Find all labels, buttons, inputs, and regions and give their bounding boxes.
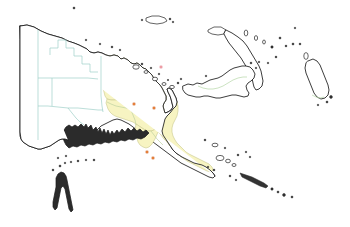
islet-feni bbox=[271, 46, 273, 48]
island-umboi bbox=[170, 85, 175, 88]
islet-nb-west-b bbox=[180, 78, 182, 80]
islet-jayapura bbox=[73, 7, 75, 9]
islet-ni-b bbox=[285, 45, 287, 47]
marker-sepik bbox=[133, 103, 135, 105]
island-normanby bbox=[232, 164, 236, 167]
island-manam bbox=[133, 65, 139, 69]
islet-north-c bbox=[158, 73, 160, 75]
marker-gulf bbox=[146, 151, 148, 153]
island-long bbox=[162, 83, 166, 86]
islet-bv-north bbox=[299, 43, 301, 45]
islet-north-b bbox=[150, 67, 152, 69]
islet-shortland-b bbox=[326, 101, 328, 103]
islet-mb-d bbox=[245, 151, 247, 153]
islet-torres-f bbox=[93, 159, 95, 161]
islet-ni-f bbox=[258, 61, 260, 63]
islet-torres-a bbox=[59, 165, 61, 167]
island-karkar bbox=[144, 71, 148, 74]
marker-lae bbox=[153, 107, 155, 109]
island-fergusson bbox=[226, 159, 231, 163]
islet-ni-d bbox=[275, 56, 277, 58]
islet-bv-south bbox=[317, 104, 319, 106]
islet-louisiade-a bbox=[271, 188, 273, 190]
islet-north-a bbox=[141, 63, 143, 65]
islet-torres-b bbox=[64, 162, 66, 164]
islet-mb-c bbox=[237, 154, 239, 156]
islet-nb-north bbox=[205, 75, 207, 77]
islet-wewak bbox=[119, 49, 121, 51]
islet-mb-a bbox=[204, 139, 206, 141]
islet-nb-west-a bbox=[177, 82, 179, 84]
islet-shortland-a bbox=[330, 96, 333, 99]
islet-torres-c bbox=[70, 161, 72, 163]
islet-louisiade-f bbox=[235, 179, 237, 181]
island-trobriand bbox=[212, 143, 218, 147]
marker-port-moresby bbox=[152, 157, 154, 159]
island-lihir bbox=[254, 36, 257, 41]
islet-torres-i bbox=[65, 155, 67, 157]
islet-torres-g bbox=[52, 169, 54, 171]
islet-louisiade-c bbox=[283, 194, 286, 197]
islet-louisiade-d bbox=[291, 196, 293, 198]
islet-mb-b bbox=[224, 147, 226, 149]
island-tabar bbox=[244, 30, 248, 36]
islet-torres-h bbox=[57, 157, 59, 159]
islet-bv-nw bbox=[294, 27, 296, 29]
islet-louisiade-b bbox=[277, 191, 279, 193]
islet-vanimo bbox=[85, 39, 87, 41]
islet-louisiade-h bbox=[207, 166, 209, 168]
papua-new-guinea-map bbox=[0, 0, 350, 227]
map-canvas bbox=[0, 0, 350, 227]
islet-louisiade-g bbox=[213, 169, 215, 171]
islet-aitape bbox=[99, 43, 101, 45]
islet-manus-east-b bbox=[172, 21, 174, 23]
islet-nb-rabaul bbox=[250, 62, 252, 64]
islet-louisiade-e bbox=[229, 175, 231, 177]
islet-ni-a bbox=[279, 37, 281, 39]
islet-torres-e bbox=[85, 159, 87, 161]
island-goodenough bbox=[216, 155, 224, 160]
marker-north-sea bbox=[160, 66, 162, 68]
islet-north-d bbox=[167, 79, 168, 80]
islet-mb-e bbox=[249, 156, 251, 158]
islet-nb-duke-york bbox=[255, 67, 257, 69]
islet-ni-e bbox=[267, 62, 269, 64]
islet-ni-c bbox=[292, 43, 294, 45]
islet-manus-west bbox=[141, 19, 143, 21]
islet-torres-d bbox=[77, 160, 79, 162]
island-bagabag bbox=[152, 77, 157, 81]
islet-sepik-mouth bbox=[111, 46, 113, 48]
island-buka bbox=[304, 53, 308, 60]
island-tanga bbox=[263, 40, 266, 44]
islet-manus-east-a bbox=[169, 18, 171, 20]
